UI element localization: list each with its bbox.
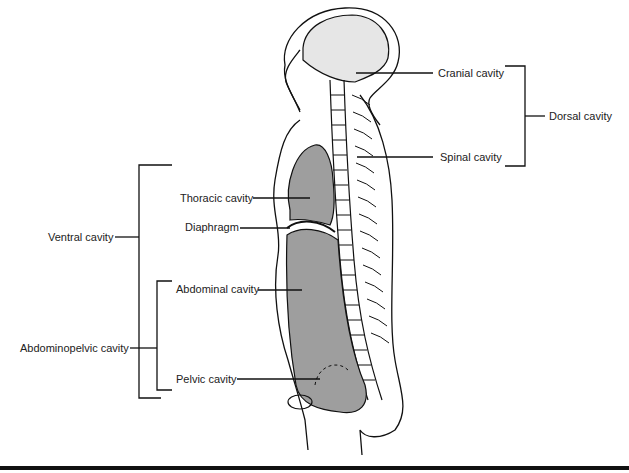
cranial-cavity: [303, 15, 389, 82]
back-outline: [360, 95, 403, 455]
label-thoracic-cavity: Thoracic cavity: [180, 192, 253, 205]
thoracic-cavity: [288, 145, 334, 225]
label-spinal-cavity: Spinal cavity: [440, 151, 502, 164]
label-dorsal-cavity: Dorsal cavity: [549, 110, 612, 123]
label-diaphragm: Diaphragm: [185, 221, 239, 234]
label-cranial-cavity: Cranial cavity: [438, 67, 504, 80]
label-pelvic-cavity: Pelvic cavity: [176, 373, 237, 386]
label-abdominal-cavity: Abdominal cavity: [176, 283, 259, 296]
bottom-divider: [0, 466, 629, 470]
spinous-processes: [352, 95, 389, 343]
body-cavities-diagram: Cranial cavity Spinal cavity Dorsal cavi…: [0, 0, 629, 473]
label-abdominopelvic-cavity: Abdominopelvic cavity: [20, 342, 129, 355]
label-ventral-cavity: Ventral cavity: [48, 231, 113, 244]
face-outline: [285, 50, 300, 112]
